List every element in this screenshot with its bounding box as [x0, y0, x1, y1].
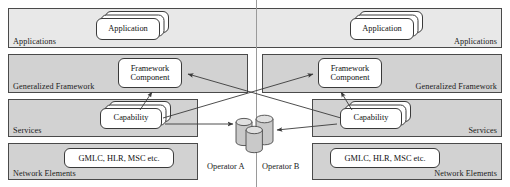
shared-database-cluster[interactable]	[0, 0, 510, 187]
database-cylinder-front	[246, 126, 262, 152]
architecture-diagram: Applications Applications Generalized Fr…	[0, 0, 510, 187]
operator-label-right: Operator B	[262, 162, 299, 171]
operator-label-left: Operator A	[207, 162, 244, 171]
